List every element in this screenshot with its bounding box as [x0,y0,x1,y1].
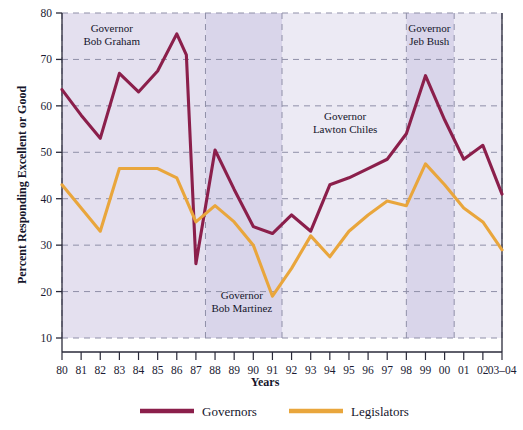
y-tick-label-20: 20 [41,286,53,298]
y-tick-label-70: 70 [41,53,53,65]
x-tick-label-96: 96 [362,364,374,376]
x-tick-label-87: 87 [190,364,202,376]
x-tick-label-81: 81 [75,364,87,376]
x-tick-label-00: 00 [439,364,451,376]
x-tick-label-95: 95 [343,364,355,376]
x-tick-label-85: 85 [152,364,164,376]
chart-container: 1020304050607080 80818283848586878889909… [0,0,523,430]
y-tick-label-30: 30 [41,239,53,251]
x-tick-label-93: 93 [305,364,317,376]
term-band-graham [62,13,205,338]
y-tick-label-40: 40 [41,193,53,205]
y-tick-label-10: 10 [41,332,53,344]
x-tick-label-03–04: 03–04 [488,364,517,376]
term-band-chiles [282,13,406,338]
term-band-bush [406,13,454,338]
y-axis-title: Percent Responding Excellent or Good [15,86,29,285]
x-tick-label-89: 89 [228,364,240,376]
x-axis-title: Years [251,375,280,389]
x-tick-label-83: 83 [114,364,126,376]
x-tick-label-98: 98 [401,364,413,376]
x-tick-label-86: 86 [171,364,183,376]
x-tick-label-99: 99 [420,364,432,376]
x-tick-label-01: 01 [458,364,470,376]
annotation-bush-line-0: Governor [408,22,450,34]
legend-label-legislators: Legislators [351,404,409,419]
annotation-chiles-line-0: Governor [324,110,366,122]
annotation-graham-line-0: Governor [91,22,133,34]
y-tick-label-50: 50 [41,146,53,158]
y-tick-label-60: 60 [41,100,53,112]
annotation-martinez-line-0: Governor [221,289,263,301]
x-tick-label-88: 88 [209,364,221,376]
y-tick-label-80: 80 [41,7,53,19]
annotation-martinez-line-1: Bob Martinez [211,302,272,314]
legend-label-governors: Governors [202,404,257,419]
annotation-graham-line-1: Bob Graham [83,35,140,47]
x-tick-label-97: 97 [381,364,393,376]
annotation-chiles-line-1: Lawton Chiles [313,123,377,135]
line-chart: 1020304050607080 80818283848586878889909… [0,0,523,430]
x-tick-label-84: 84 [133,364,145,376]
x-tick-label-82: 82 [95,364,107,376]
x-tick-label-92: 92 [286,364,298,376]
x-tick-label-94: 94 [324,364,336,376]
x-tick-label-80: 80 [56,364,68,376]
annotation-bush-line-1: Jeb Bush [409,35,450,47]
